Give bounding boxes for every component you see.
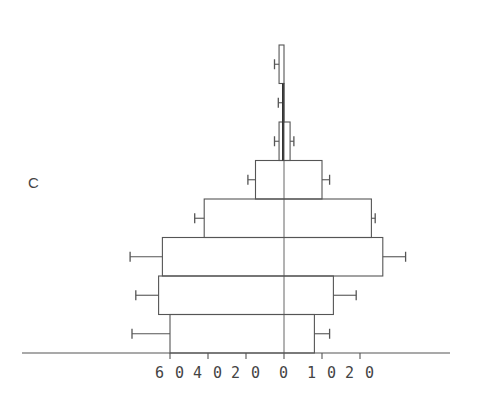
tick-label: 2 0 [231,364,261,382]
x-axis: 6 04 02 001 02 0 [22,353,450,382]
tick-label: 6 0 [155,364,185,382]
tick-label: 1 0 [307,364,337,382]
pyramid-bar [279,122,290,161]
pyramid-bar [170,315,314,354]
tick-label: 0 [279,364,289,382]
tick-label: 4 0 [193,364,223,382]
bar-group [130,45,406,353]
pyramid-bar [279,45,284,84]
pyramid-bar [256,161,323,200]
tick-label: 2 0 [345,364,375,382]
pyramid-chart: 6 04 02 001 02 0 [0,0,482,396]
pyramid-bar [159,276,334,315]
pyramid-bar [162,238,382,277]
pyramid-bar [204,199,371,238]
